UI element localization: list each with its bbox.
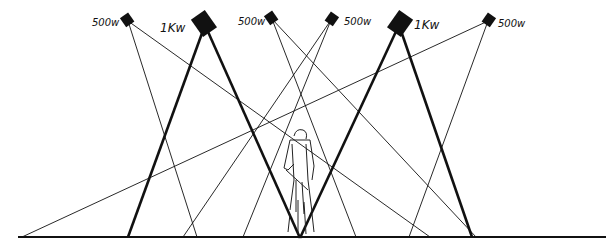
lamp-2-group: 1Kw — [160, 10, 217, 37]
lamp-3-wattage-label: 500w — [238, 16, 266, 27]
lamp-1-group: 500w — [92, 12, 134, 28]
lamp-5-wattage-label: 1Kw — [414, 18, 440, 32]
spotlight-icon — [325, 11, 340, 26]
lamps: 500w1Kw500w500w1Kw500w — [92, 10, 526, 37]
lamp-3-group: 500w — [238, 10, 278, 27]
beam-lamp-3-2 — [272, 19, 476, 237]
beam-lamp-5-1 — [300, 25, 399, 238]
spotlight-icon — [387, 10, 413, 37]
beam-lamp-6-2 — [409, 21, 488, 237]
beam-lamp-1-1 — [128, 21, 197, 237]
lamp-2-wattage-label: 1Kw — [160, 21, 186, 35]
lamp-4-group: 500w — [325, 11, 372, 27]
lamp-4-wattage-label: 500w — [344, 16, 372, 27]
lamp-6-wattage-label: 500w — [498, 18, 526, 29]
spotlight-icon — [482, 12, 497, 27]
spotlight-icon — [191, 10, 217, 37]
light-beams — [22, 19, 488, 238]
lamp-6-group: 500w — [482, 12, 526, 29]
beam-lamp-6-1 — [22, 21, 488, 237]
lamp-1-wattage-label: 500w — [92, 17, 120, 28]
lighting-diagram: 500w1Kw500w500w1Kw500w — [0, 0, 610, 248]
spotlight-icon — [120, 12, 135, 27]
